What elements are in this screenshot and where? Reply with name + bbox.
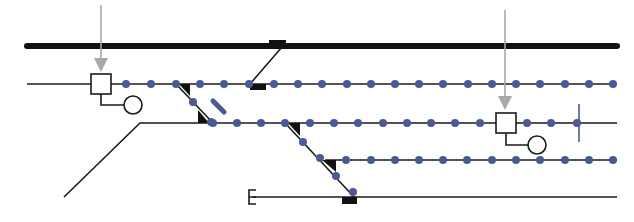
main-line-marker: [269, 40, 286, 48]
signal-right-box: [496, 113, 516, 133]
signal-left-box: [91, 74, 111, 94]
signal-right-lamp-icon: [528, 136, 546, 154]
end-marker-e-icon: [249, 190, 256, 204]
signal-left-lamp-icon: [124, 96, 142, 114]
track4-marker: [342, 197, 357, 204]
arrow-left-head-icon: [94, 58, 108, 72]
arrow-right-head-icon: [498, 96, 512, 110]
crossover-main-track1: [250, 47, 282, 84]
track-1-dots: [122, 80, 617, 88]
switch-frog-2a: [288, 123, 300, 136]
signal-left: [91, 5, 142, 114]
track-layout-diagram: E: [0, 0, 634, 222]
dashed-route: [213, 101, 224, 112]
